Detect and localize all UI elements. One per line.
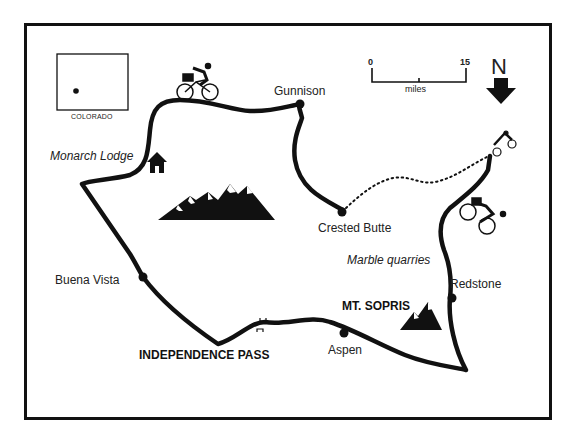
cyclist-icon (460, 198, 506, 234)
cyclist-icon (177, 64, 218, 101)
place-buena-vista: Buena Vista (55, 273, 120, 287)
mountain-range-icon (158, 184, 275, 220)
town-dot-icon-gunnison (296, 100, 305, 109)
place-aspen: Aspen (328, 343, 362, 357)
scale-unit: miles (405, 84, 426, 94)
north-label: N (491, 54, 507, 80)
place-monarch-lodge: Monarch Lodge (50, 149, 133, 163)
place-mt-sopris: MT. SOPRIS (342, 299, 410, 313)
scale-end: 15 (460, 57, 470, 67)
route-map (0, 0, 574, 437)
town-dot-icon-redstone (448, 294, 457, 303)
inset-label: COLORADO (71, 113, 113, 120)
north-arrow-icon (486, 78, 516, 104)
location-dot-icon (73, 88, 79, 94)
colorado-inset (57, 54, 128, 110)
cyclist-icon (493, 131, 516, 156)
place-redstone: Redstone (450, 277, 501, 291)
town-dot-icon-aspen (340, 329, 349, 338)
place-gunnison: Gunnison (274, 84, 325, 98)
town-dot-icon-buena-vista (139, 273, 148, 282)
dotted-route (346, 157, 487, 208)
scale-start: 0 (368, 57, 373, 67)
scale-bar (372, 68, 466, 82)
lodge-house-icon (147, 152, 167, 173)
place-independence-pass: INDEPENDENCE PASS (139, 348, 269, 362)
town-dot-icon-crested-butte (338, 208, 347, 217)
place-marble-quarries: Marble quarries (347, 253, 430, 267)
place-crested-butte: Crested Butte (318, 221, 391, 235)
